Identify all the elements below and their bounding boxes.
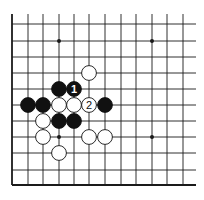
white-stone-icon <box>67 98 82 113</box>
white-stone-icon <box>36 130 51 145</box>
black-stone-icon <box>21 98 36 113</box>
black-stone-icon <box>52 82 67 97</box>
white-stone <box>36 114 51 129</box>
star-point-icon <box>57 135 61 139</box>
star-point-icon <box>150 135 154 139</box>
stones: 12 <box>21 66 113 161</box>
white-stone-icon <box>52 146 67 161</box>
white-stone-icon <box>82 130 97 145</box>
black-stone-icon <box>52 114 67 129</box>
go-board: 12 <box>0 0 204 200</box>
black-stone-icon <box>36 98 51 113</box>
white-stone <box>52 146 67 161</box>
black-stone-icon <box>67 114 82 129</box>
black-stone <box>21 98 36 113</box>
move-number-label: 1 <box>71 83 77 95</box>
black-stone <box>67 114 82 129</box>
black-stone-icon <box>98 98 113 113</box>
white-stone-icon <box>98 130 113 145</box>
star-point-icon <box>150 39 154 43</box>
white-stone <box>82 130 97 145</box>
black-stone <box>52 114 67 129</box>
white-stone <box>67 98 82 113</box>
white-stone-icon <box>82 66 97 81</box>
black-stone <box>36 98 51 113</box>
white-stone-icon <box>36 114 51 129</box>
white-stone <box>82 66 97 81</box>
white-stone: 2 <box>82 98 97 113</box>
white-stone <box>98 130 113 145</box>
black-stone: 1 <box>67 82 82 97</box>
move-number-label: 2 <box>86 99 92 111</box>
white-stone <box>36 130 51 145</box>
star-point-icon <box>57 39 61 43</box>
white-stone <box>52 98 67 113</box>
black-stone <box>52 82 67 97</box>
black-stone <box>98 98 113 113</box>
white-stone-icon <box>52 98 67 113</box>
